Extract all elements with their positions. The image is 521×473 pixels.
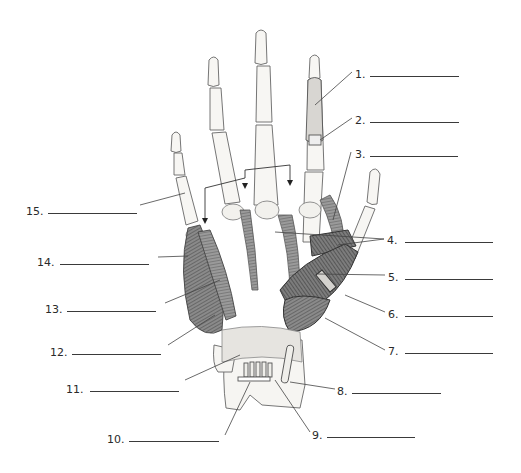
hand-muscle-diagram: 1. 2. 3. 4. 5. 6. 7. 8. 9. 10. 11. — [0, 0, 521, 473]
answer-blank[interactable] — [90, 391, 179, 392]
extensor-hood — [306, 78, 323, 146]
answer-blank[interactable] — [352, 393, 441, 394]
answer-blank[interactable] — [405, 353, 493, 354]
answer-blank[interactable] — [370, 76, 459, 77]
answer-blank[interactable] — [405, 242, 493, 243]
finger-bones — [171, 30, 380, 259]
answer-blank[interactable] — [67, 311, 156, 312]
label-number: 15. — [26, 206, 44, 218]
label-number: 13. — [45, 304, 63, 316]
label-number: 6. — [388, 309, 399, 321]
label-number: 8. — [337, 386, 348, 398]
answer-blank[interactable] — [405, 316, 493, 317]
label-number: 14. — [37, 257, 55, 269]
label-number: 12. — [50, 347, 68, 359]
answer-blank[interactable] — [370, 122, 459, 123]
label-number: 3. — [355, 149, 366, 161]
answer-blank[interactable] — [327, 437, 415, 438]
label-number: 10. — [107, 434, 125, 446]
hypothenar-muscles — [183, 225, 236, 333]
label-number: 2. — [355, 115, 366, 127]
label-number: 9. — [312, 430, 323, 442]
hand-illustration — [0, 0, 521, 473]
answer-blank[interactable] — [370, 156, 458, 157]
label-number: 1. — [355, 69, 366, 81]
answer-blank[interactable] — [405, 279, 493, 280]
answer-blank[interactable] — [129, 441, 219, 442]
answer-blank[interactable] — [60, 264, 149, 265]
label-number: 11. — [66, 384, 84, 396]
label-number: 5. — [388, 272, 399, 284]
answer-blank[interactable] — [48, 213, 137, 214]
label-number: 7. — [388, 346, 399, 358]
answer-blank[interactable] — [72, 354, 161, 355]
label-number: 4. — [387, 235, 398, 247]
